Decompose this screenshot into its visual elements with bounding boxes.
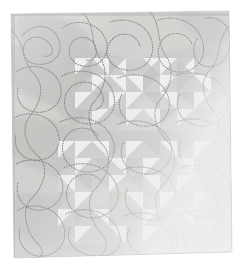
artwork-svg [0, 0, 241, 277]
artwork-canvas: Abstract Truchet Maze Composition genera… [0, 0, 241, 277]
plate-group [0, 0, 241, 277]
paper-grain [0, 0, 241, 277]
